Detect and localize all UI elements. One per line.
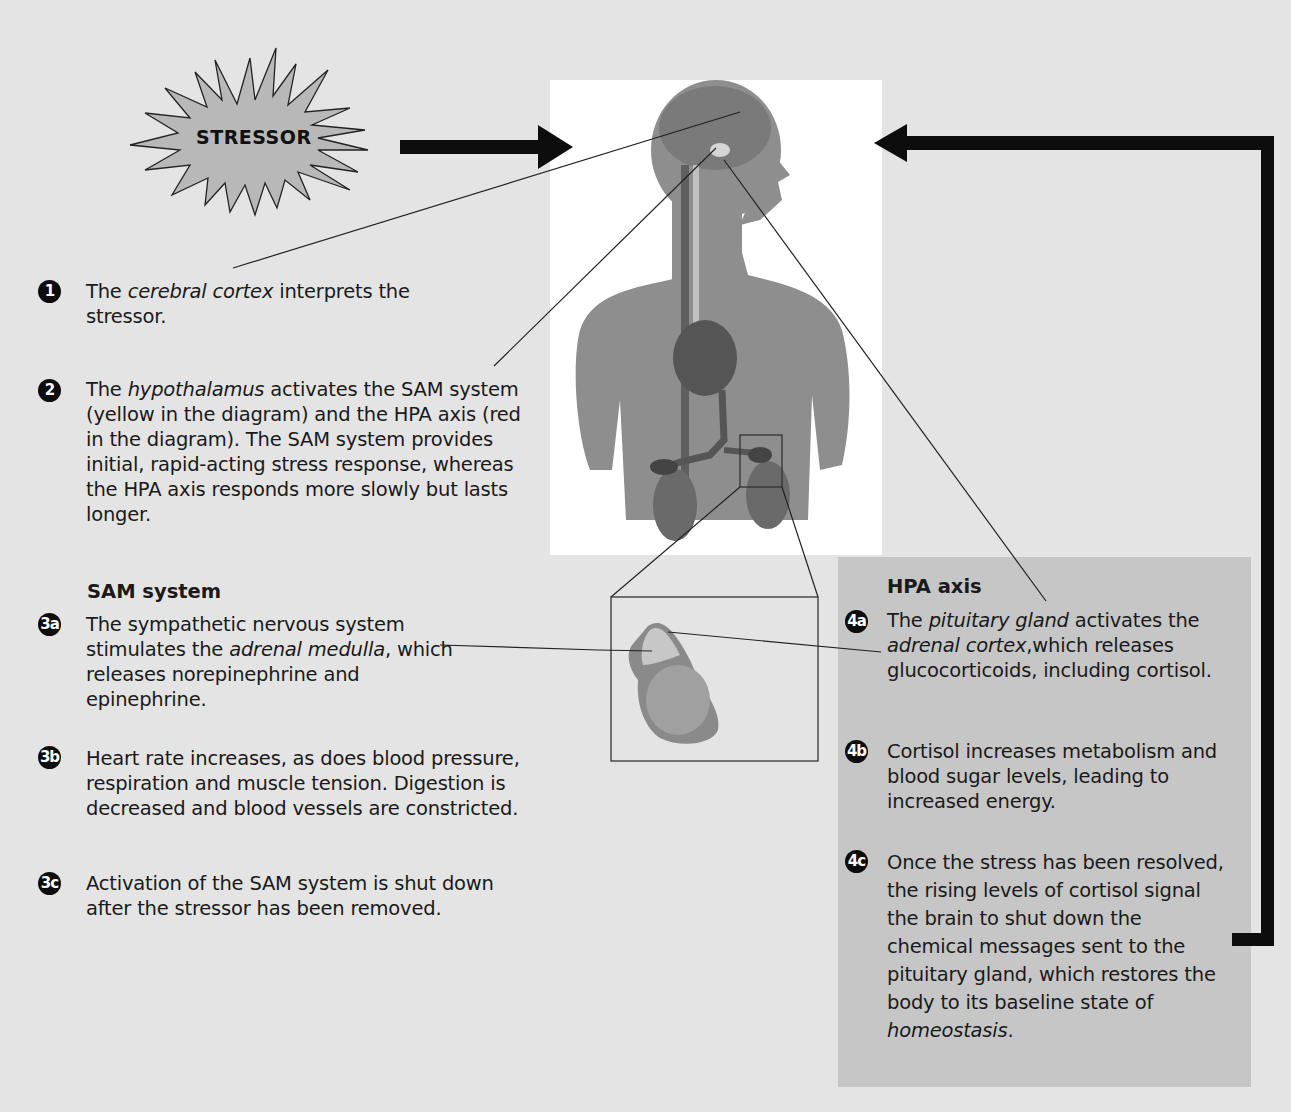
step-4a-text: The pituitary gland activates the adrena… [887,608,1247,683]
leader-line-adrenal-cortex [668,632,881,652]
step-3a-text: The sympathetic nervous system stimulate… [86,612,461,712]
term-adrenal-cortex: adrenal cortex [887,634,1026,657]
step-badge-4c: 4c [845,850,868,873]
step-4b-text: Cortisol increases metabolism and blood … [887,739,1242,814]
step-badge-3a: 3a [38,613,61,636]
step-3c-text: Activation of the SAM system is shut dow… [86,871,506,921]
leader-line-adrenal-medulla [440,645,598,650]
step-4c-text: Once the stress has been resolved, the r… [887,849,1232,1045]
step-badge-2: 2 [38,379,61,402]
step-badge-4b: 4b [845,740,868,763]
term-adrenal-medulla: adrenal medulla [229,638,385,661]
adrenal-gland-illustration [629,623,719,744]
stressor-label: STRESSOR [196,126,312,148]
term-pituitary-gland: pituitary gland [929,609,1069,632]
term-cerebral-cortex: cerebral cortex [128,280,274,303]
step-badge-3b: 3b [38,746,61,769]
feedback-arrow-icon [874,124,1274,946]
human-body-illustration [576,80,850,541]
arrow-right-icon [400,125,573,169]
sam-system-heading: SAM system [87,580,221,604]
step-1-text: The cerebral cortex interprets the stres… [86,279,426,329]
step-badge-3c: 3c [38,872,61,895]
step-3b-text: Heart rate increases, as does blood pres… [86,746,548,821]
hpa-axis-heading: HPA axis [887,575,982,599]
step-badge-4a: 4a [845,610,868,633]
term-hypothalamus: hypothalamus [128,378,265,401]
step-badge-1: 1 [38,280,61,303]
step-2-text: The hypothalamus activates the SAM syste… [86,377,531,527]
term-homeostasis: homeostasis [887,1019,1008,1042]
